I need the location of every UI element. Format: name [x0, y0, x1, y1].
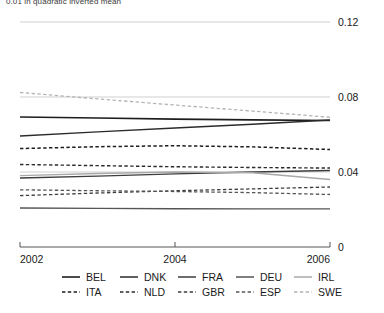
x-axis: 200220042006 [20, 242, 330, 265]
series-line-deu [20, 208, 330, 209]
legend-label-nld: NLD [144, 286, 165, 298]
y-tick-label: 0.12 [338, 16, 359, 28]
legend-label-irl: IRL [318, 271, 335, 283]
line-chart: 200220042006 00.040.080.12 BELDNKFRADEUI… [0, 0, 384, 313]
series-line-dnk [20, 120, 330, 136]
legend-label-swe: SWE [318, 286, 342, 298]
y-axis-labels: 00.040.080.12 [338, 16, 359, 253]
gridlines [20, 22, 330, 172]
y-tick-label: 0.08 [338, 91, 359, 103]
legend-label-esp: ESP [260, 286, 281, 298]
x-tick-label: 2002 [20, 253, 44, 265]
series-line-irl [20, 172, 330, 180]
legend-label-ita: ITA [86, 286, 102, 298]
series-line-bel [20, 117, 330, 120]
series-line-gbr [20, 187, 330, 196]
legend-label-deu: DEU [260, 271, 282, 283]
chart-container: 0.01 in quadratic inverted mean 20022004… [0, 0, 384, 313]
y-tick-label: 0 [338, 241, 344, 253]
y-tick-label: 0.04 [338, 166, 359, 178]
legend-label-fra: FRA [202, 271, 223, 283]
legend-label-gbr: GBR [202, 286, 225, 298]
series-line-ita [20, 146, 330, 150]
series-line-swe [20, 93, 330, 118]
series-lines [20, 93, 330, 209]
chart-legend: BELDNKFRADEUIRLITANLDGBRESPSWE [62, 271, 342, 298]
legend-label-bel: BEL [86, 271, 106, 283]
x-tick-label: 2004 [163, 253, 187, 265]
legend-label-dnk: DNK [144, 271, 166, 283]
series-line-nld [20, 165, 330, 169]
x-tick-label: 2006 [307, 253, 331, 265]
